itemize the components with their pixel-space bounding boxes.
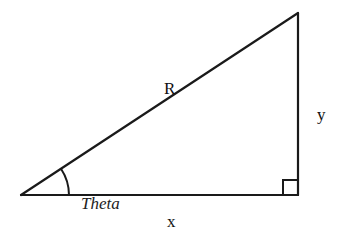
angle-label: Theta: [81, 194, 120, 213]
angle-arc: [61, 169, 69, 195]
opposite-label: y: [317, 105, 326, 124]
hypotenuse-label: R: [164, 79, 176, 98]
hypotenuse-line: [21, 13, 298, 195]
triangle: [21, 13, 298, 195]
adjacent-label: x: [167, 212, 176, 231]
right-triangle-diagram: R y x Theta: [0, 0, 341, 239]
right-angle-marker: [283, 180, 298, 195]
